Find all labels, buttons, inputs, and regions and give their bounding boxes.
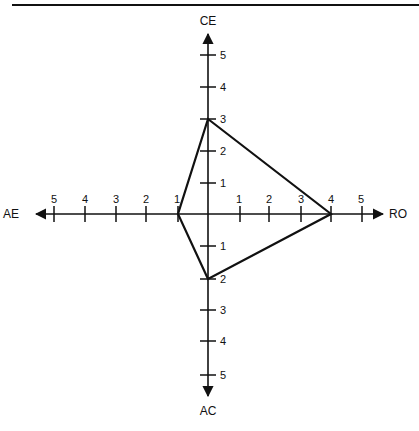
learning-style-diagram: CE AC AE RO 1 2 3 4 5 1 2 3 4 5 — [0, 0, 419, 431]
svg-text:3: 3 — [298, 193, 304, 205]
svg-text:5: 5 — [220, 49, 226, 61]
svg-text:4: 4 — [220, 335, 226, 347]
svg-text:1: 1 — [174, 193, 180, 205]
profile-kite — [178, 119, 331, 279]
svg-text:5: 5 — [358, 193, 364, 205]
svg-text:2: 2 — [220, 145, 226, 157]
tick-labels-ae: 1 2 3 4 5 — [51, 193, 180, 205]
svg-text:2: 2 — [143, 193, 149, 205]
tick-labels-ro: 1 2 3 4 5 — [236, 193, 364, 205]
svg-text:4: 4 — [220, 81, 226, 93]
svg-text:3: 3 — [220, 113, 226, 125]
svg-text:3: 3 — [113, 193, 119, 205]
svg-text:2: 2 — [266, 193, 272, 205]
svg-text:3: 3 — [220, 304, 226, 316]
tick-labels-ce: 1 2 3 4 5 — [220, 49, 226, 189]
svg-text:1: 1 — [220, 177, 226, 189]
axis-label-ro: RO — [389, 207, 407, 221]
svg-text:5: 5 — [51, 193, 57, 205]
svg-text:1: 1 — [220, 240, 226, 252]
svg-text:1: 1 — [236, 193, 242, 205]
axis-label-ac: AC — [200, 404, 217, 418]
tick-labels-ac: 1 2 3 4 5 — [220, 240, 226, 381]
svg-text:5: 5 — [220, 369, 226, 381]
svg-text:4: 4 — [328, 193, 334, 205]
axis-label-ce: CE — [200, 14, 217, 28]
svg-text:2: 2 — [220, 273, 226, 285]
svg-text:4: 4 — [82, 193, 88, 205]
axis-label-ae: AE — [3, 207, 19, 221]
